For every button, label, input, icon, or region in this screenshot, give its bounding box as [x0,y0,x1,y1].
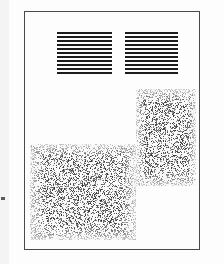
pattern-rule [125,60,178,62]
pattern-rule [57,64,112,66]
pattern-rule [57,32,112,34]
pattern-rule [125,56,178,58]
pattern-rule [57,44,112,46]
pattern-rule [125,52,178,54]
pattern-rule [125,72,178,74]
pattern-rule [125,40,178,42]
right-line-pattern [125,32,178,77]
pattern-rule [125,36,178,38]
left-halftone-canvas [30,144,136,240]
pattern-rule [57,36,112,38]
left-halftone-patch [30,144,136,240]
pattern-rule [57,60,112,62]
right-halftone-canvas [136,89,196,186]
pattern-rule [57,40,112,42]
pattern-rule [125,32,178,34]
left-edge-registration-mark [1,197,5,200]
pattern-rule [125,44,178,46]
pattern-rule [57,56,112,58]
pattern-rule [57,52,112,54]
pattern-rule [57,72,112,74]
left-line-pattern [57,32,112,77]
pattern-rule [57,68,112,70]
scan-test-page [0,0,224,264]
pattern-rule [57,48,112,50]
left-scan-band [0,0,9,264]
pattern-rule [125,48,178,50]
pattern-rule [125,64,178,66]
pattern-rule [125,68,178,70]
right-halftone-patch [136,89,196,186]
